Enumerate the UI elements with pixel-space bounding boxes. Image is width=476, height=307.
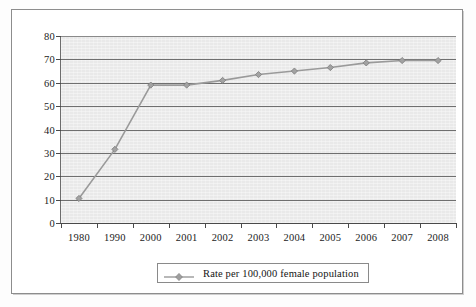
x-tick-label-1990: 1990	[104, 232, 126, 243]
x-tick-label-2003: 2003	[248, 232, 270, 243]
x-tick-label-2005: 2005	[319, 232, 341, 243]
y-tick-label-40: 40	[44, 124, 55, 135]
x-tick-mark-2	[133, 223, 134, 228]
y-tick-label-60: 60	[44, 77, 55, 88]
x-tick-label-2000: 2000	[140, 232, 162, 243]
figure-frame: 01020304050607080 1980199020002001200220…	[11, 9, 463, 294]
plot-area: 01020304050607080 1980199020002001200220…	[60, 36, 456, 224]
x-tick-label-2004: 2004	[284, 232, 306, 243]
y-tick-label-70: 70	[44, 54, 55, 65]
x-tick-mark-11	[456, 223, 457, 228]
x-tick-mark-9	[384, 223, 385, 228]
y-tick-label-10: 10	[44, 194, 55, 205]
x-tick-mark-7	[312, 223, 313, 228]
data-point-2004	[291, 68, 297, 74]
x-tick-label-2007: 2007	[391, 232, 413, 243]
data-point-2005	[327, 64, 333, 70]
chart-legend: Rate per 100,000 female population	[157, 263, 369, 283]
x-tick-mark-5	[241, 223, 242, 228]
series-line-rate	[79, 61, 438, 199]
data-point-2003	[255, 71, 261, 77]
x-tick-label-2001: 2001	[176, 232, 198, 243]
x-tick-mark-0	[61, 223, 62, 228]
y-tick-label-80: 80	[44, 31, 55, 42]
x-tick-mark-10	[420, 223, 421, 228]
legend-label-rate: Rate per 100,000 female population	[203, 268, 359, 279]
x-tick-mark-6	[276, 223, 277, 228]
data-point-2001	[184, 82, 190, 88]
series-layer	[61, 36, 456, 223]
y-tick-label-30: 30	[44, 147, 55, 158]
x-tick-label-2006: 2006	[355, 232, 377, 243]
y-tick-label-20: 20	[44, 171, 55, 182]
series-markers-rate	[76, 57, 441, 201]
data-point-2000	[148, 82, 154, 88]
y-tick-label-0: 0	[50, 218, 55, 229]
chart-figure: 01020304050607080 1980199020002001200220…	[0, 0, 476, 307]
x-tick-mark-4	[205, 223, 206, 228]
x-tick-mark-1	[97, 223, 98, 228]
legend-marker-icon	[164, 268, 194, 278]
x-tick-label-2002: 2002	[212, 232, 234, 243]
data-point-2008	[435, 57, 441, 63]
data-point-2006	[363, 60, 369, 66]
x-tick-mark-8	[348, 223, 349, 228]
y-tick-label-50: 50	[44, 101, 55, 112]
x-tick-mark-3	[169, 223, 170, 228]
x-tick-label-1980: 1980	[68, 232, 90, 243]
data-point-2002	[219, 77, 225, 83]
data-point-2007	[399, 57, 405, 63]
x-tick-label-2008: 2008	[427, 232, 449, 243]
